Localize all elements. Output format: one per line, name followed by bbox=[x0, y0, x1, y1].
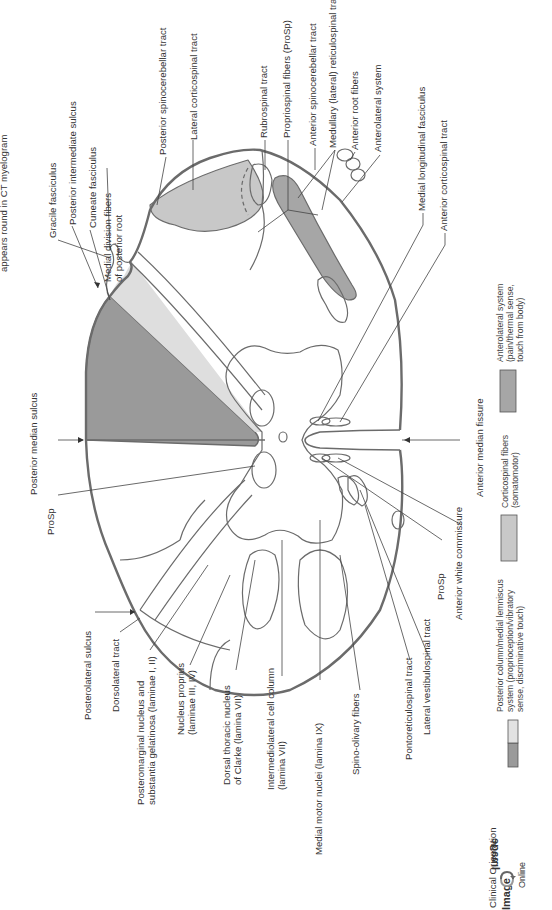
label-gracile-fasciculus: Gracile fasciculus bbox=[47, 163, 58, 238]
label-rubrospinal-tract: Rubrospinal tract bbox=[258, 65, 269, 138]
legend-line: Anterolateral system bbox=[495, 284, 505, 362]
label-prosp-left: ProSp bbox=[45, 508, 56, 535]
label-anterior-median-fissure: Anterior median fissure bbox=[474, 398, 485, 497]
rotate-arrows-icon bbox=[497, 870, 517, 888]
label-propriospinal-fibers: Propriospinal fibers (ProSp) bbox=[281, 20, 292, 138]
caption-fragment: appears round in CT myelogram bbox=[0, 135, 9, 272]
legend-swatch-posterior-light bbox=[508, 720, 518, 743]
label-line: (laminae III, IV) bbox=[186, 663, 197, 735]
label-line: Dorsal thoracic nucleus bbox=[221, 685, 232, 785]
label-lateral-corticospinal-tract: Lateral corticospinal tract bbox=[188, 33, 199, 140]
label-dorsolateral-tract: Dorsolateral tract bbox=[110, 639, 121, 712]
label-nucleus-proprius: Nucleus proprius (laminae III, IV) bbox=[175, 663, 197, 735]
label-posterior-spinocerebellar-tract: Posterior spinocerebellar tract bbox=[157, 28, 168, 155]
legend-swatch-anterolateral bbox=[500, 370, 516, 412]
legend-swatch-posterior-dark bbox=[508, 743, 518, 767]
legend-line: system (proprioception/vibratory bbox=[505, 579, 515, 712]
legend-corticospinal: Corticospinal fibers (somatomotor) bbox=[500, 435, 520, 508]
logo-image-word-mirrored: Image bbox=[490, 838, 501, 870]
label-line: substantia gelatinosa (laminae I, II) bbox=[146, 656, 157, 805]
label-medial-longitudinal-fasciculus: Medial longitudinal fasciculus bbox=[416, 87, 427, 211]
label-line: of posterior root bbox=[113, 193, 124, 282]
label-anterior-corticospinal-tract: Anterior corticospinal tract bbox=[438, 120, 449, 231]
legend-line: (pain/thermal sense, bbox=[505, 284, 515, 362]
label-medial-motor-nuclei: Medial motor nuclei (lamina IX) bbox=[313, 723, 324, 855]
legend-anterolateral: Anterolateral system (pain/thermal sense… bbox=[495, 284, 525, 362]
label-cuneate-fasciculus: Cuneate fasciculus bbox=[87, 147, 98, 228]
label-anterior-white-commissure: Anterior white commissure bbox=[453, 507, 464, 620]
label-line: Nucleus proprius bbox=[175, 663, 186, 735]
label-lateral-vestibulospinal-tract: Lateral vestibulospinal tract bbox=[421, 619, 432, 735]
label-line: Posteromarginal nucleus and bbox=[135, 656, 146, 805]
label-spino-olivary-fibers: Spino-olivary fibers bbox=[350, 693, 361, 775]
logo-online: Online bbox=[517, 862, 528, 888]
label-posterior-intermediate-sulcus: Posterior intermediate sulcus bbox=[67, 101, 78, 225]
label-anterior-root-fibers: Anterior root fibers bbox=[349, 71, 360, 150]
label-pontoreticulospinal-tract: Pontoreticulospinal tract bbox=[403, 658, 414, 760]
legend-swatch-corticospinal bbox=[501, 515, 517, 561]
label-posterolateral-sulcus: Posterolateral sulcus bbox=[82, 631, 93, 720]
anterolateral-region bbox=[273, 176, 357, 300]
label-line: of Clarke (lamina VII) bbox=[232, 685, 243, 785]
label-prosp-right: ProSp bbox=[435, 573, 446, 600]
label-medial-division-fibers: Medial division fibers of posterior root bbox=[102, 193, 124, 282]
label-line: Medial division fibers bbox=[102, 193, 113, 282]
label-anterior-spinocerebellar-tract: Anterior spinocerebellar tract bbox=[307, 23, 318, 146]
legend-line: sense, discriminative touch) bbox=[515, 579, 525, 712]
legend-line: touch from body) bbox=[515, 284, 525, 362]
label-line: (lamina VII) bbox=[276, 668, 287, 790]
legend-line: Posterior column/medial lemniscus bbox=[495, 579, 505, 712]
label-intermediolateral-cell-column: Intermediolateral cell column (lamina VI… bbox=[265, 668, 287, 790]
anterior-median-fissure bbox=[305, 430, 400, 450]
legend-line: Corticospinal fibers bbox=[500, 435, 510, 508]
label-line: Intermediolateral cell column bbox=[265, 668, 276, 790]
label-anterolateral-system: Anterolateral system bbox=[372, 65, 383, 152]
label-dorsal-thoracic-nucleus: Dorsal thoracic nucleus of Clarke (lamin… bbox=[221, 685, 243, 785]
label-posteromarginal-nucleus: Posteromarginal nucleus and substantia g… bbox=[135, 656, 157, 805]
label-medullary-reticulospinal-tract: Medullary (lateral) reticulospinal tract bbox=[327, 0, 338, 148]
legend-line: (somatomotor) bbox=[510, 435, 520, 508]
label-posterior-median-sulcus: Posterior median sulcus bbox=[28, 393, 39, 495]
legend-posterior-column: Posterior column/medial lemniscus system… bbox=[495, 579, 525, 712]
